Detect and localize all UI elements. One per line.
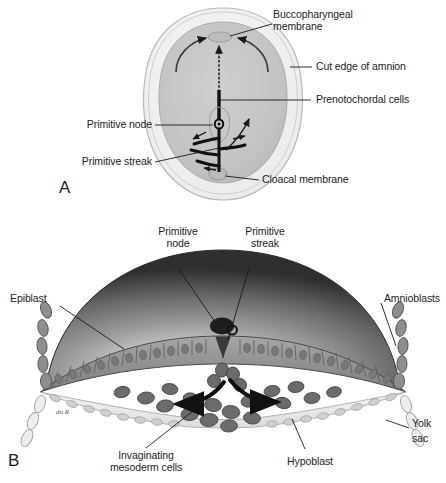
label-cloacal-membrane: Cloacal membrane (262, 174, 349, 186)
leader-b-yolk-sac (386, 420, 409, 428)
label-yolk-sac-line2: sac (412, 433, 428, 445)
label-cut-edge-of-amnion: Cut edge of amnion (316, 61, 406, 73)
label-epiblast: Epiblast (10, 293, 47, 305)
panel-letter-a: A (59, 178, 70, 198)
panel-letter-b: B (8, 451, 19, 471)
label-buccopharyngeal-membrane-line2: membrane (273, 21, 322, 33)
artist-signature: do R (56, 408, 70, 416)
buccopharyngeal-membrane-shape (208, 32, 232, 42)
primitive-node-pit (218, 122, 221, 125)
label-prenotochordal-cells: Prenotochordal cells (316, 94, 409, 106)
label-primitive-node-b-line2: node (128, 238, 228, 250)
label-amnioblasts: Amnioblasts (328, 293, 440, 305)
label-primitive-streak-a: Primitive streak (20, 156, 152, 168)
label-primitive-streak-b-line1: Primitive (218, 226, 312, 238)
embryology-figure: do R Buccopharyngeal membrane Cut edge o… (0, 0, 446, 483)
panel-b-illustration: do R (19, 250, 427, 449)
leader-b-hypoblast (292, 419, 305, 449)
label-primitive-node-b-line1: Primitive (128, 226, 228, 238)
label-invaginating-mesoderm-cells-line2: mesoderm cells (75, 462, 217, 474)
label-primitive-streak-b-line2: streak (218, 238, 312, 250)
label-primitive-node-a: Primitive node (20, 119, 152, 131)
label-invaginating-mesoderm-cells-line1: Invaginating (75, 450, 217, 462)
label-yolk-sac-line1: Yolk (412, 418, 431, 430)
label-hypoblast: Hypoblast (258, 456, 362, 468)
panel-a-illustration (144, 8, 312, 200)
yolk-sac-left (19, 394, 48, 448)
label-buccopharyngeal-membrane-line1: Buccopharyngeal (273, 9, 353, 21)
embryonic-disc (159, 22, 287, 183)
